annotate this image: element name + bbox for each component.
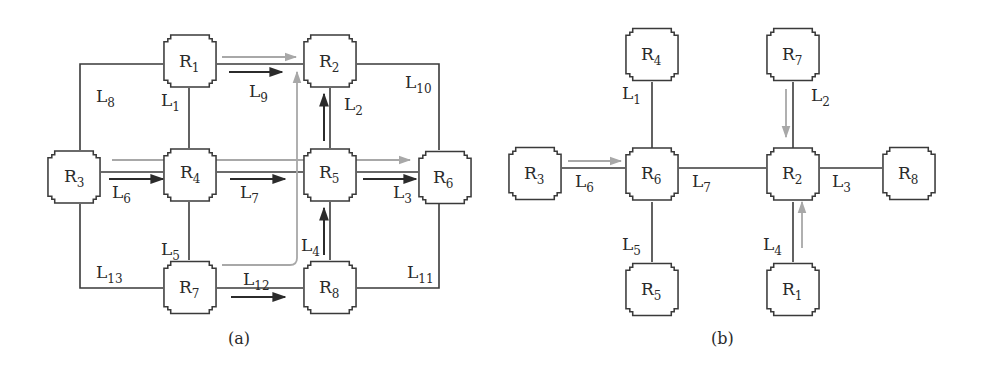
label-b-l1: L1 xyxy=(622,83,641,107)
router-a-r2: R2 xyxy=(304,35,356,87)
label-b-l3: L3 xyxy=(832,171,851,195)
router-b-r1: R1 xyxy=(767,263,819,315)
label-b-l6: L6 xyxy=(575,171,594,195)
router-a-r4: R4 xyxy=(164,149,216,201)
router-a-r3: R3 xyxy=(48,151,100,203)
link-l8 xyxy=(80,64,163,150)
label-l1: L1 xyxy=(161,90,180,114)
label-l2: L2 xyxy=(344,94,363,118)
panel-a-dark-flows xyxy=(109,72,416,297)
panel-a-gray-flows xyxy=(112,57,410,265)
router-a-r1: R1 xyxy=(164,35,216,87)
router-b-r8: R8 xyxy=(883,147,935,199)
panel-a-link-labels: L8 L1 L9 L2 L10 L6 L7 L3 L5 L4 L13 L12 L… xyxy=(96,72,434,293)
label-l5: L5 xyxy=(161,239,180,263)
label-l3: L3 xyxy=(393,182,412,206)
router-b-r3: R3 xyxy=(509,147,561,199)
router-a-r8: R8 xyxy=(304,261,356,313)
label-l8: L8 xyxy=(96,86,115,110)
label-l11: L11 xyxy=(407,262,434,286)
panel-b-routers: R4 R3 R6 R5 R7 R2 R8 R1 xyxy=(509,28,935,315)
label-b-l2: L2 xyxy=(811,85,830,109)
router-a-r7: R7 xyxy=(164,261,216,313)
label-b-l7: L7 xyxy=(692,171,711,195)
label-l13: L13 xyxy=(96,262,123,286)
router-b-r2: R2 xyxy=(767,148,819,200)
caption-b: (b) xyxy=(711,329,734,348)
label-l9: L9 xyxy=(249,81,268,105)
caption-a: (a) xyxy=(228,329,250,348)
link-l10 xyxy=(357,64,439,150)
router-b-r6: R6 xyxy=(626,148,678,200)
panel-a: L8 L1 L9 L2 L10 L6 L7 L3 L5 L4 L13 L12 L… xyxy=(48,35,471,348)
label-b-l5: L5 xyxy=(622,234,641,258)
router-b-r4: R4 xyxy=(626,28,678,80)
label-l7: L7 xyxy=(240,182,259,206)
panel-b: L1 L6 L7 L5 L2 L3 L4 R4 R3 R6 R5 R7 R2 R… xyxy=(509,28,935,348)
router-b-r5: R5 xyxy=(626,263,678,315)
label-l10: L10 xyxy=(405,72,432,96)
router-b-r7: R7 xyxy=(767,28,819,80)
router-a-r5: R5 xyxy=(304,149,356,201)
router-a-r6: R6 xyxy=(419,151,471,203)
label-l6: L6 xyxy=(112,182,131,206)
label-b-l4: L4 xyxy=(763,234,782,258)
network-diagram: L8 L1 L9 L2 L10 L6 L7 L3 L5 L4 L13 L12 L… xyxy=(0,0,985,368)
label-l12: L12 xyxy=(243,269,270,293)
label-l4: L4 xyxy=(301,235,320,259)
